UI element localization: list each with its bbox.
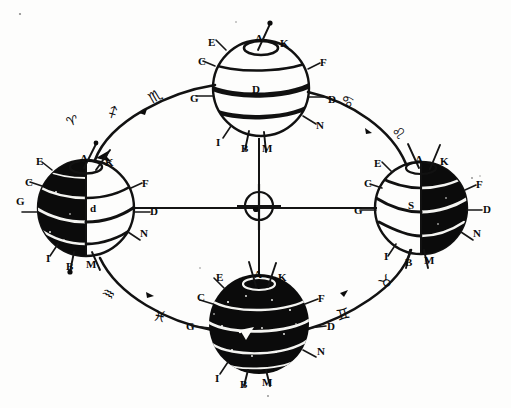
globe-left-label-B: B: [66, 260, 74, 272]
speck-b2: [245, 295, 247, 297]
globe-bottom-label-B: B: [240, 378, 248, 390]
globe-top-label-E: E: [208, 36, 215, 48]
globe-left-label-K: K: [105, 156, 114, 168]
globe-left-label-I: I: [46, 252, 50, 264]
zodiac-aries-icon: ♈: [64, 112, 80, 130]
globe-top-label-G: G: [190, 92, 199, 104]
orbit-direction-arrows: [96, 109, 372, 298]
globe-left-axis-pin-head: [94, 141, 99, 146]
globe-top-tropic-cancer: [208, 80, 318, 95]
arrow-tick-lower-left: [146, 292, 154, 298]
globe-right-label-K: K: [440, 155, 449, 167]
grain-5: [479, 175, 480, 176]
globe-top-axis-pin-head: [267, 20, 272, 25]
globe-right-label-M: M: [424, 254, 435, 266]
zodiac-pisces-icon: ♓: [151, 306, 168, 326]
globe-right-label-B: B: [405, 256, 413, 268]
globe-left-label-A: A: [80, 152, 88, 164]
zodiac-taurus-icon: ♉: [375, 271, 397, 293]
ray-bottom-n: [303, 350, 316, 357]
ray-top-i: [223, 126, 231, 138]
speck-b12: [213, 313, 215, 315]
globe-top-label-A: A: [255, 32, 263, 44]
ray-left-e: [42, 162, 52, 170]
speck-b13: [295, 323, 297, 325]
globe-top-label-center: D: [252, 83, 260, 95]
globe-bottom-label-D: D: [327, 320, 335, 332]
globe-bottom-label-F: F: [318, 292, 325, 304]
globe-bottom-label-K: K: [278, 271, 287, 283]
zodiac-sagittarius-icon: ♐: [104, 103, 121, 122]
arrow-tick-upper-right: [365, 128, 372, 134]
globe-top-label-F: F: [320, 56, 327, 68]
globe-top: A K E C G F D N I B M D: [190, 20, 336, 154]
globe-left-speck-2: [69, 213, 71, 215]
globe-right-label-E: E: [374, 157, 381, 169]
globe-left-label-E: E: [36, 155, 43, 167]
globe-right-label-G: G: [354, 204, 363, 216]
globe-top-label-C: C: [198, 55, 206, 67]
globe-left-label-center: d: [90, 202, 96, 214]
grain-6: [199, 267, 201, 269]
diagram-canvas: A K E C G F D N I B M D: [0, 0, 511, 408]
globe-top-label-D: D: [328, 93, 336, 105]
ray-top-n: [303, 116, 316, 124]
zodiac-scorpio-icon: ♏: [145, 85, 166, 108]
globe-right: A K E C G F D N I B M S: [354, 144, 491, 268]
astronomy-diagram: A K E C G F D N I B M D: [0, 0, 511, 408]
globe-right-tropic-cancer: [376, 198, 421, 212]
ray-left-n: [128, 232, 140, 240]
globe-right-label-N: N: [473, 227, 481, 239]
ray-top-f: [308, 63, 320, 69]
globe-top-label-K: K: [280, 37, 289, 49]
ray-right-f: [465, 185, 476, 190]
globe-left-label-D: D: [150, 205, 158, 217]
globe-right-label-C: C: [364, 177, 372, 189]
globe-bottom-label-M: M: [262, 376, 273, 388]
grain-4: [235, 21, 237, 23]
globe-bottom-label-N: N: [317, 345, 325, 357]
globe-left-speck-1: [55, 191, 57, 193]
globe-top-label-I: I: [216, 136, 220, 148]
globe-left-label-M: M: [86, 258, 97, 270]
zodiac-capricorn-icon: ♊: [334, 304, 352, 325]
globe-right-label-center: S: [408, 199, 414, 211]
speck-b8: [283, 333, 285, 335]
globe-bottom-label-E: E: [216, 271, 223, 283]
globe-left-label-G: G: [16, 195, 25, 207]
globe-left-label-N: N: [140, 227, 148, 239]
globe-left-label-C: C: [25, 176, 33, 188]
globe-top-label-M: M: [262, 142, 273, 154]
speck-b3: [271, 299, 273, 301]
grain-3: [267, 395, 269, 397]
speck-b10: [251, 355, 253, 357]
globe-left-arctic-circle: [86, 184, 134, 198]
ray-bottom-i: [220, 362, 228, 374]
speck-b4: [289, 309, 291, 311]
ray-left-i: [50, 244, 58, 256]
ray-right-n: [461, 232, 473, 240]
zodiac-aquarius-icon: ♒: [98, 283, 119, 305]
globe-bottom-label-C: C: [197, 291, 205, 303]
globe-right-label-I: I: [384, 250, 388, 262]
ray-right-i: [388, 244, 396, 256]
speck-b11: [275, 351, 277, 353]
speck-b9: [231, 349, 233, 351]
ray-bottom-d: [309, 326, 326, 328]
globe-bottom-label-I: I: [215, 372, 219, 384]
grain-2: [471, 177, 473, 179]
speck-b7: [261, 327, 263, 329]
globe-right-label-F: F: [476, 178, 483, 190]
globe-right-speck-2: [437, 223, 439, 225]
globe-left-speck-3: [49, 231, 51, 233]
sun-symbol: [237, 184, 281, 230]
globe-right-speck-1: [445, 197, 447, 199]
grain-1: [19, 13, 21, 15]
globe-bottom-label-G: G: [186, 320, 195, 332]
ray-bottom-f: [305, 299, 318, 304]
globe-bottom: A K E C G F D N I B M: [186, 262, 335, 390]
globe-top-label-B: B: [241, 142, 249, 154]
orbit-arc-lower-right: [305, 250, 411, 330]
globe-top-label-N: N: [316, 119, 324, 131]
globe-right-equator: [379, 222, 421, 236]
